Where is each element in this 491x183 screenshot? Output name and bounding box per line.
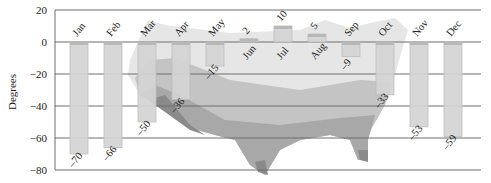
- y-axis-title: Degrees: [6, 74, 18, 110]
- bar-cap: [104, 42, 122, 45]
- chart-canvas: 200−20−40−60−80Degrees Jan–70Feb–66Mar–5…: [0, 0, 491, 183]
- month-label-feb: Feb: [104, 19, 123, 38]
- bar-dec: [444, 42, 462, 136]
- bar-jan: [70, 42, 88, 154]
- y-axis: 200−20−40−60−80Degrees: [6, 4, 55, 176]
- bar-feb: [104, 42, 122, 148]
- bar-chart: 200−20−40−60−80Degrees Jan–70Feb–66Mar–5…: [0, 0, 491, 183]
- y-tick-label: −80: [30, 164, 48, 176]
- bar-cap: [308, 34, 326, 37]
- bar-cap: [376, 42, 394, 45]
- y-tick-label: −60: [30, 132, 48, 144]
- bar-oct: [376, 42, 394, 95]
- bar-cap: [410, 42, 428, 45]
- y-tick-label: 0: [42, 36, 48, 48]
- y-tick-label: 20: [36, 4, 48, 16]
- bar-may: [206, 42, 224, 66]
- bar-cap: [70, 42, 88, 45]
- bar-cap: [444, 42, 462, 45]
- bar-cap: [206, 42, 224, 45]
- bar-cap: [274, 26, 292, 29]
- y-tick-label: −20: [30, 68, 48, 80]
- bar-mar: [138, 42, 156, 122]
- bar-cap: [342, 42, 360, 45]
- bar-cap: [172, 42, 190, 45]
- bar-cap: [138, 42, 156, 45]
- month-label-dec: Dec: [444, 18, 464, 38]
- month-label-nov: Nov: [410, 17, 431, 38]
- month-label-jan: Jan: [70, 20, 88, 38]
- bar-nov: [410, 42, 428, 127]
- bar-cap: [240, 39, 258, 42]
- y-tick-label: −40: [30, 100, 48, 112]
- bar-apr: [172, 42, 190, 100]
